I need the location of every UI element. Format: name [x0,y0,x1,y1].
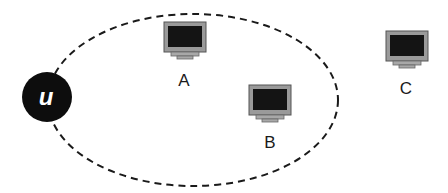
computer-b-label: B [264,134,275,151]
diagram-canvas [0,0,448,193]
computer-c-label: C [400,80,412,97]
computer-b-monitor-icon [248,84,292,124]
user-node-label: u [39,85,54,109]
computer-a-monitor-icon [163,21,207,61]
computer-c-monitor-icon [385,30,429,70]
computer-a-label: A [178,72,189,89]
